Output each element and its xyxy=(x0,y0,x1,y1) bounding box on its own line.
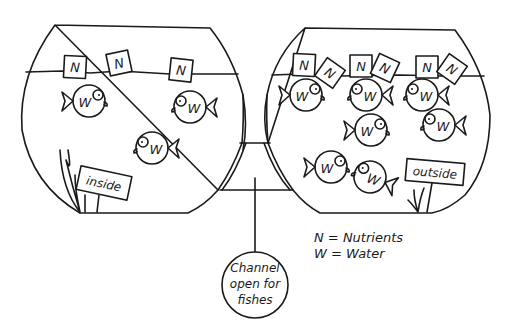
inside-sign: inside xyxy=(76,166,132,212)
channel-label: Channel open for fishes xyxy=(222,252,288,318)
water-label: W xyxy=(364,89,378,104)
water-label: W xyxy=(79,95,93,110)
nutrient-label: N xyxy=(175,63,187,79)
water-label: W xyxy=(188,101,202,116)
channel-label-line1: Channel xyxy=(230,261,280,275)
right-seaweed xyxy=(408,188,424,212)
legend-water: W = Water xyxy=(314,246,386,261)
outside-sign: outside xyxy=(405,159,465,212)
left-bowl xyxy=(22,25,246,213)
left-nutrients: N N N xyxy=(63,50,193,82)
left-seaweed xyxy=(60,150,80,212)
nutrient-label: N xyxy=(356,59,366,74)
channel xyxy=(220,95,292,252)
legend-nutrients: N = Nutrients xyxy=(314,230,403,245)
nutrient-label: N xyxy=(422,60,432,75)
water-label: W xyxy=(296,89,310,104)
left-fish: W W W xyxy=(62,85,217,164)
water-label: W xyxy=(150,142,164,157)
right-nutrients: N N N N N N xyxy=(292,53,467,88)
nutrient-label: N xyxy=(70,60,81,76)
water-label: W xyxy=(437,119,451,134)
channel-label-line3: fishes xyxy=(237,293,272,307)
nutrient-label: N xyxy=(299,58,310,74)
legend: N = Nutrients W = Water xyxy=(314,230,403,261)
water-label: W xyxy=(361,124,375,139)
water-label: W xyxy=(420,89,434,104)
channel-label-line2: open for xyxy=(230,277,281,291)
osmosis-fishbowl-diagram: Channel open for fishes N N N W W W xyxy=(0,0,507,329)
water-label: W xyxy=(321,161,335,176)
